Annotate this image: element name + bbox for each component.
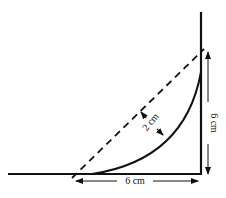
right-dimension-label: 6 cm [209, 113, 220, 133]
right-dimension: 6 cm [208, 52, 220, 174]
bottom-dimension: 6 cm [76, 175, 198, 186]
bottom-dimension-label: 6 cm [125, 175, 145, 186]
dashed-chord-line [72, 49, 204, 178]
sag-dimension: 2 cm [140, 110, 163, 135]
diagram-canvas: 6 cm 6 cm 2 cm [0, 0, 226, 198]
